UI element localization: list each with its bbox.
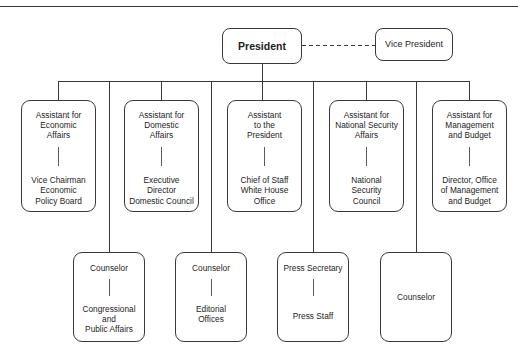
node-assistant-domestic-affairs[interactable]: Assistant for Domestic Affairs Executive…	[124, 100, 199, 212]
node-press-secretary[interactable]: Press Secretary Press Staff	[277, 252, 349, 342]
node-title: Assistant for Management and Budget	[433, 110, 506, 140]
node-title: Press Secretary	[278, 263, 348, 273]
node-title: Assistant for Economic Affairs	[22, 110, 95, 140]
node-assistant-management-and-budget[interactable]: Assistant for Management and Budget Dire…	[432, 100, 507, 212]
node-subtitle: Vice Chairman Economic Policy Board	[22, 175, 95, 205]
node-divider-rule	[264, 147, 265, 166]
node-title: Assistant to the President	[228, 110, 301, 140]
node-divider-rule	[109, 279, 110, 296]
node-subtitle: National Security Council	[330, 175, 403, 205]
node-divider-rule	[161, 147, 162, 166]
node-subtitle: Press Staff	[278, 311, 348, 321]
node-subtitle: Director, Office of Management and Budge…	[433, 175, 506, 205]
node-assistant-to-the-president[interactable]: Assistant to the President Chief of Staf…	[227, 100, 302, 212]
node-vice-president-label: Vice President	[376, 39, 452, 50]
node-title: Counselor	[176, 263, 246, 273]
node-counselor-congressional-public-affairs[interactable]: Counselor Congressional and Public Affai…	[73, 252, 145, 342]
node-counselor-editorial-offices[interactable]: Counselor Editorial Offices	[175, 252, 247, 342]
node-divider-rule	[211, 279, 212, 296]
node-president-label: President	[223, 40, 301, 53]
node-assistant-national-security-affairs[interactable]: Assistant for National Security Affairs …	[329, 100, 404, 212]
node-subtitle: Congressional and Public Affairs	[74, 304, 144, 334]
org-chart-canvas: President Vice President Assistant for E…	[0, 0, 518, 363]
node-president[interactable]: President	[222, 28, 302, 64]
node-subtitle: Executive Director Domestic Council	[125, 175, 198, 205]
node-vice-president[interactable]: Vice President	[375, 28, 453, 61]
node-subtitle: Editorial Offices	[176, 304, 246, 324]
node-divider-rule	[366, 147, 367, 166]
node-title: Counselor	[74, 263, 144, 273]
node-title: Assistant for Domestic Affairs	[125, 110, 198, 140]
node-title: Assistant for National Security Affairs	[330, 110, 403, 140]
node-assistant-economic-affairs[interactable]: Assistant for Economic Affairs Vice Chai…	[21, 100, 96, 212]
node-subtitle: Chief of Staff White House Office	[228, 175, 301, 205]
node-divider-rule	[58, 147, 59, 166]
node-counselor-4[interactable]: Counselor	[380, 252, 452, 342]
node-title: Counselor	[381, 292, 451, 302]
node-divider-rule	[313, 279, 314, 296]
node-divider-rule	[469, 147, 470, 166]
